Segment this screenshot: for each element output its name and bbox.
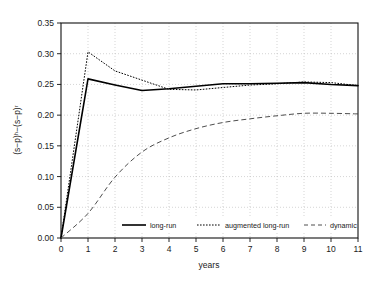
- x-tick-label: 11: [354, 244, 363, 254]
- y-tick-label: 0.30: [37, 49, 54, 59]
- x-tick-label: 10: [326, 244, 336, 254]
- chart-legend: long-run augmented long-run dynamic: [116, 218, 357, 232]
- y-tick-label: 0.05: [37, 202, 54, 212]
- x-tick-label: 9: [302, 244, 307, 254]
- x-tick-label: 4: [167, 244, 172, 254]
- legend-label-dynamic: dynamic: [330, 221, 357, 230]
- y-tick-label: 0.35: [37, 18, 54, 28]
- x-tick-label: 6: [221, 244, 226, 254]
- x-tick-label: 2: [113, 244, 118, 254]
- x-tick-label: 7: [248, 244, 253, 254]
- y-tick-label: 0.00: [37, 233, 54, 243]
- y-tick-label: 0.15: [37, 141, 54, 151]
- x-tick-label: 3: [140, 244, 145, 254]
- x-tick-label: 0: [59, 244, 64, 254]
- y-tick-label: 0.20: [37, 110, 54, 120]
- y-axis-title: (s−p)ʰ−(s−p)ʳ: [12, 105, 22, 154]
- figure-background: [0, 0, 376, 285]
- x-axis-title: years: [199, 260, 220, 270]
- legend-label-long-run: long-run: [150, 221, 176, 230]
- legend-label-augmented-long-run: augmented long-run: [225, 221, 289, 230]
- x-tick-label: 5: [194, 244, 199, 254]
- y-tick-label: 0.10: [37, 172, 54, 182]
- y-tick-label: 0.25: [37, 79, 54, 89]
- x-tick-label: 8: [275, 244, 280, 254]
- x-tick-label: 1: [86, 244, 91, 254]
- chart-figure: 0.000.050.100.150.200.250.300.35 0123456…: [0, 0, 376, 285]
